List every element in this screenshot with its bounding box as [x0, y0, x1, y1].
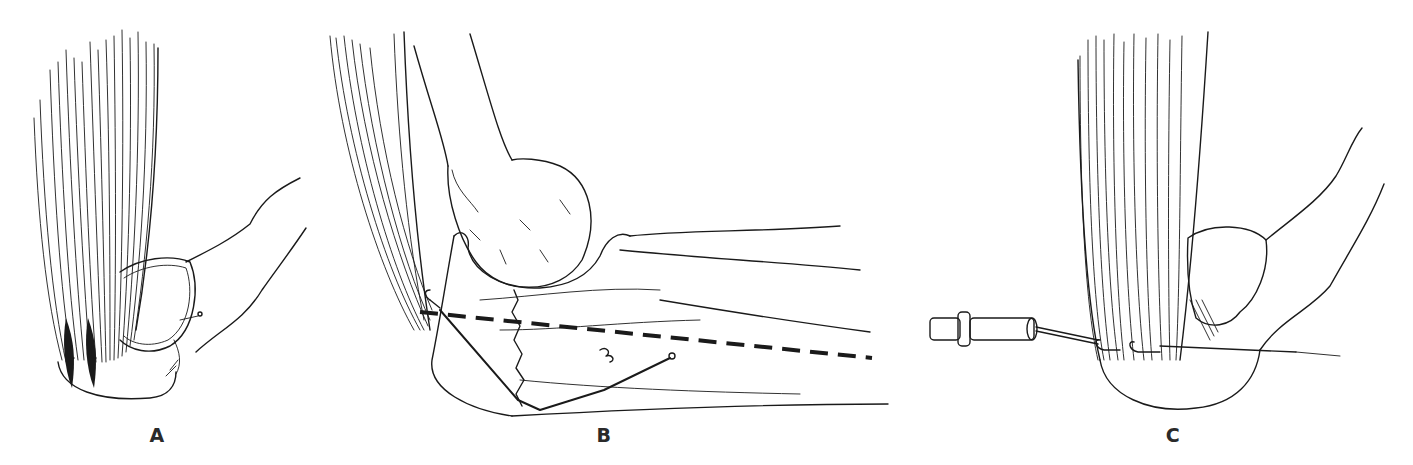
panel-c-needle-and-wire	[930, 312, 1340, 356]
panel-label-b: B	[597, 424, 612, 446]
three-panel-illustration: A B C	[0, 0, 1413, 465]
panel-c-drawing	[0, 0, 1413, 465]
panel-label-a: A	[149, 424, 164, 446]
panel-c-triceps	[1078, 32, 1208, 360]
panel-label-c: C	[1166, 424, 1180, 446]
panel-c-olecranon	[1100, 128, 1384, 409]
